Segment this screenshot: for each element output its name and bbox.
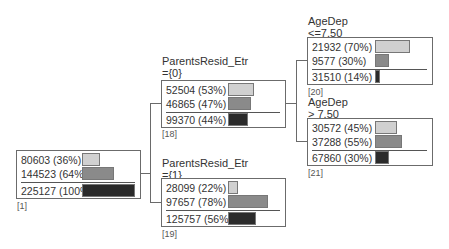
node-class0-count: 28099 (22%) <box>166 182 226 194</box>
split-variable-label: AgeDep <box>308 96 348 108</box>
connector-to-node-18 <box>150 103 161 104</box>
total-bar <box>375 151 389 164</box>
class0-bar <box>375 121 397 134</box>
node-id-label: [19] <box>162 229 177 239</box>
node-total-count: 67860 (30%) <box>312 152 372 164</box>
node-class0-count: 52504 (53%) <box>166 84 226 96</box>
split-variable-label: ParentsResid_Etr <box>162 157 248 169</box>
connector-root-vertical <box>150 103 151 203</box>
tree-node-18[interactable]: 52504 (53%) 46865 (47%) 99370 (44%) <box>161 80 286 128</box>
node-id-label: [18] <box>162 129 177 139</box>
split-variable-label: ParentsResid_Etr <box>162 55 248 67</box>
connector-node18-vertical <box>296 60 297 142</box>
connector-to-node-20 <box>296 60 307 61</box>
node-class1-count: 144523 (64%) <box>21 168 87 180</box>
node-total-count: 125757 (56%) <box>166 213 232 225</box>
total-bar <box>228 113 248 126</box>
node-class1-count: 46865 (47%) <box>166 98 226 110</box>
divider <box>166 112 280 113</box>
class0-bar <box>375 40 410 53</box>
class1-bar <box>375 135 402 148</box>
divider <box>312 69 427 70</box>
split-variable-label: AgeDep <box>308 15 348 27</box>
class0-bar <box>228 181 238 194</box>
node-class1-count: 9577 (30%) <box>312 55 366 67</box>
node-class1-count: 37288 (55%) <box>312 136 372 148</box>
tree-node-21[interactable]: 30572 (45%) 37288 (55%) 67860 (30%) <box>307 118 433 166</box>
tree-node-1[interactable]: 80603 (36%) 144523 (64%) 225127 (100%) <box>16 150 141 199</box>
class1-bar <box>82 167 114 180</box>
node-id-label: [21] <box>308 168 323 178</box>
total-bar <box>82 184 135 197</box>
divider <box>21 182 135 183</box>
class1-bar <box>228 97 251 110</box>
total-bar <box>375 70 380 83</box>
divider <box>166 210 280 211</box>
total-bar <box>228 212 256 225</box>
class1-bar <box>228 195 268 208</box>
class1-bar <box>375 54 389 67</box>
connector-node18-stem <box>285 103 296 104</box>
tree-node-20[interactable]: 21932 (70%) 9577 (30%) 31510 (14%) <box>307 37 433 85</box>
class0-bar <box>82 153 100 166</box>
connector-to-node-19 <box>150 202 161 203</box>
node-class0-count: 21932 (70%) <box>312 41 372 53</box>
node-total-count: 31510 (14%) <box>312 71 372 83</box>
node-class0-count: 80603 (36%) <box>21 154 81 166</box>
tree-node-19[interactable]: 28099 (22%) 97657 (78%) 125757 (56%) <box>161 178 286 227</box>
split-condition-label: ={0} <box>162 67 182 79</box>
node-class0-count: 30572 (45%) <box>312 122 372 134</box>
node-id-label: [1] <box>17 201 27 211</box>
divider <box>312 150 427 151</box>
class0-bar <box>228 83 254 96</box>
node-class1-count: 97657 (78%) <box>166 196 226 208</box>
connector-to-node-21 <box>296 141 307 142</box>
node-total-count: 99370 (44%) <box>166 114 226 126</box>
